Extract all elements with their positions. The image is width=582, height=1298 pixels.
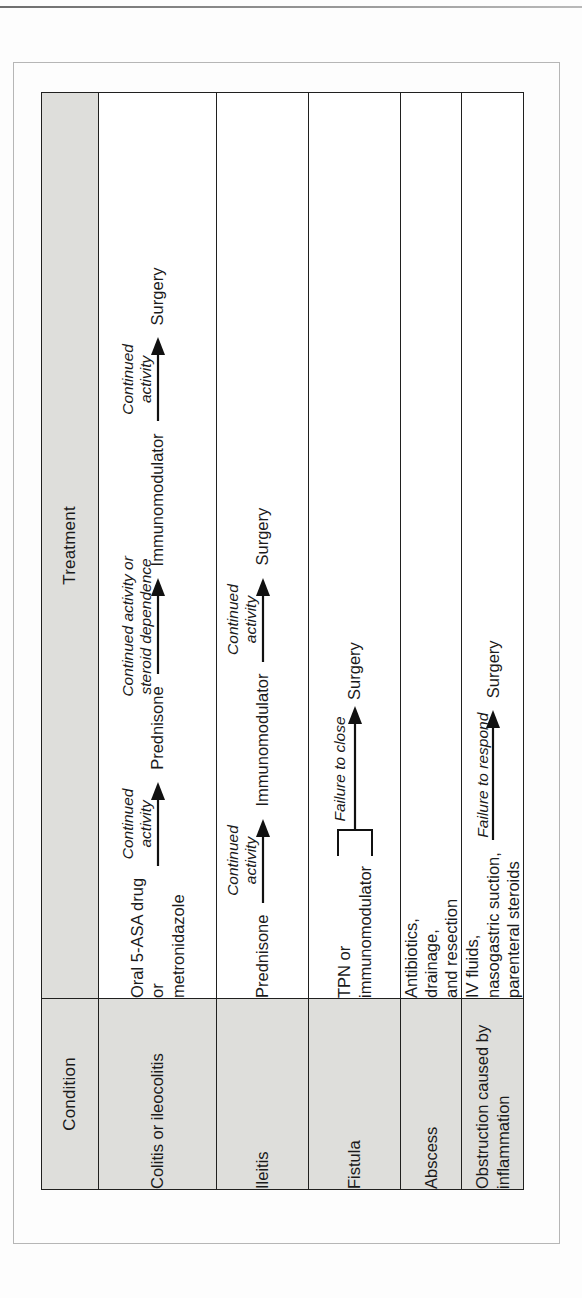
column-header-condition: Condition: [42, 999, 99, 1190]
treatment-node: TPN or immunomodulator: [334, 866, 374, 998]
condition-cell: Ileitis: [217, 999, 309, 1190]
column-header-treatment: Treatment: [42, 93, 99, 999]
table-header-row: Condition Treatment: [42, 93, 99, 1190]
flow-arrow: Continued activity: [99, 337, 216, 421]
treatment-flow: Antibiotics, drainage, and resection: [401, 93, 461, 998]
treatment-algorithm-table: Condition Treatment Colitis or ileocolit…: [41, 92, 524, 1190]
condition-cell: Abscess: [401, 999, 462, 1190]
treatment-cell: Oral 5-ASA drug or metronidazole Continu…: [99, 93, 217, 999]
table-body: Colitis or ileocolitis Oral 5-ASA drug o…: [99, 93, 524, 1190]
arrow-caption: Failure to close: [331, 716, 349, 821]
flow-brace-arrow: Failure to close: [309, 706, 400, 856]
table-row: Ileitis Prednisone Continued activity: [217, 93, 309, 1190]
treatment-cell: IV fluids, nasogastric suction, parenter…: [462, 93, 523, 999]
flow-arrow: Continued activity: [217, 819, 308, 903]
arrow-caption: Continued activity: [119, 739, 156, 909]
arrow-caption: Continued activity: [224, 535, 261, 705]
treatment-flow: IV fluids, nasogastric suction, parenter…: [462, 93, 522, 998]
arrow-caption: Continued activity or steroid dependence: [119, 506, 156, 746]
scanned-page: Condition Treatment Colitis or ileocolit…: [0, 0, 582, 1298]
condition-cell: Colitis or ileocolitis: [99, 999, 217, 1190]
treatment-node: Antibiotics, drainage, and resection: [401, 899, 461, 998]
treatment-flow: TPN or immunomodulator Failure to close: [309, 93, 400, 998]
table-row: Obstruction caused by inflammation IV fl…: [462, 93, 523, 1190]
treatment-cell: Antibiotics, drainage, and resection: [401, 93, 462, 999]
table-row: Colitis or ileocolitis Oral 5-ASA drug o…: [99, 93, 217, 1190]
arrow-caption: Continued activity: [224, 776, 261, 946]
treatment-cell: Prednisone Continued activity Immunomodu…: [217, 93, 309, 999]
arrow-caption: Continued activity: [119, 294, 156, 464]
table-row: Fistula TPN or immunomodulator Failure t…: [309, 93, 401, 1190]
arrow-caption: Failure to respond: [474, 655, 492, 895]
flow-arrow: Continued activity or steroid dependence: [99, 578, 216, 674]
treatment-cell: TPN or immunomodulator Failure to close: [309, 93, 401, 999]
flow-arrow: Continued activity: [217, 578, 308, 662]
condition-cell: Fistula: [309, 999, 401, 1190]
rotated-table-wrapper: Condition Treatment Colitis or ileocolit…: [41, 92, 511, 1190]
treatment-node: Surgery: [344, 642, 364, 700]
treatment-flow: Oral 5-ASA drug or metronidazole Continu…: [99, 93, 216, 998]
treatment-node: IV fluids, nasogastric suction, parenter…: [462, 852, 522, 998]
table-head: Condition Treatment: [42, 93, 99, 1190]
flow-arrow: Failure to respond: [485, 710, 501, 840]
treatment-flow: Prednisone Continued activity Immunomodu…: [217, 93, 308, 998]
condition-cell: Obstruction caused by inflammation: [462, 999, 523, 1190]
table-row: Abscess Antibiotics, drainage, and resec…: [401, 93, 462, 1190]
flow-arrow: Continued activity: [99, 782, 216, 866]
scan-top-edge: [0, 6, 582, 8]
